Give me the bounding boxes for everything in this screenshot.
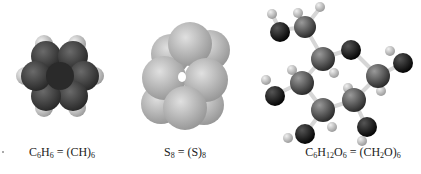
glucose-caption: C6H12O6 = (CH2O)6 [305,145,400,160]
benzene-model: C6H6 = (CH)6 [0,0,140,174]
benzene-caption: C6H6 = (CH)6 [29,145,95,160]
sulfur-caption: S8 = (S)8 [164,145,206,160]
glucose-model: C6H12O6 = (CH2O)6 [250,0,421,174]
